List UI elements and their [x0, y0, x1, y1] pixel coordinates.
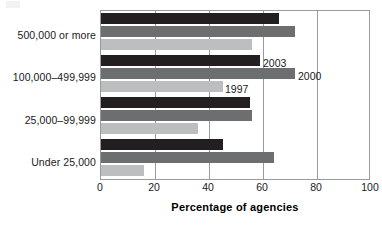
- series-annotation-1997: 1997: [225, 84, 248, 95]
- xtick-label: 100: [361, 182, 379, 193]
- bar-1997: [101, 165, 144, 176]
- bar-2003: [101, 97, 250, 108]
- category-axis: 500,000 or more 100,000–499,999 25,000–9…: [0, 10, 96, 180]
- bar-1997: [101, 39, 252, 50]
- bar-group: [101, 97, 369, 139]
- category-label: 25,000–99,999: [0, 115, 96, 126]
- category-label: 100,000–499,999: [0, 72, 96, 83]
- value-axis: 0 20 40 60 80 100: [0, 182, 382, 196]
- xtick-label: 20: [148, 182, 160, 193]
- xtick-label: 80: [310, 182, 322, 193]
- bar-2003: [101, 13, 279, 24]
- x-axis-title: Percentage of agencies: [100, 201, 370, 213]
- category-label: 500,000 or more: [0, 30, 96, 41]
- bar-group: [101, 13, 369, 55]
- bar-chart: 500,000 or more 100,000–499,999 25,000–9…: [0, 0, 382, 231]
- bar-group: [101, 139, 369, 181]
- bar-2000: [101, 68, 295, 79]
- series-annotation-2000: 2000: [298, 71, 321, 82]
- series-annotation-2003: 2003: [263, 58, 286, 69]
- xtick-label: 40: [202, 182, 214, 193]
- bar-1997: [101, 123, 198, 134]
- xtick-label: 0: [97, 182, 103, 193]
- plot-area: 2003 2000 1997: [100, 10, 370, 180]
- scan-artifact: [6, 1, 20, 8]
- bar-2003: [101, 55, 260, 66]
- category-label: Under 25,000: [0, 157, 96, 168]
- bar-2000: [101, 152, 274, 163]
- xtick-label: 60: [256, 182, 268, 193]
- bar-1997: [101, 81, 223, 92]
- bar-2003: [101, 139, 223, 150]
- bar-2000: [101, 110, 252, 121]
- bar-2000: [101, 26, 295, 37]
